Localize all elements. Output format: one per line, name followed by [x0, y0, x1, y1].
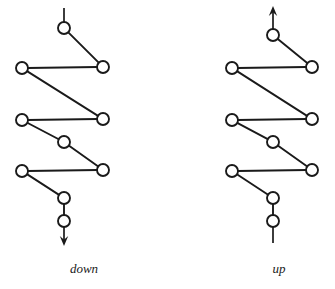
chain-node: [306, 61, 318, 73]
chain-node: [306, 113, 318, 125]
panel-label-down: down: [70, 261, 98, 276]
chain-node: [97, 113, 109, 125]
chain-node: [58, 136, 70, 148]
chain-edge: [27, 170, 97, 171]
chain-node: [267, 215, 279, 227]
zigzag-chain-figure: downup: [0, 0, 335, 289]
chain-node: [97, 164, 109, 176]
chain-node: [226, 165, 238, 177]
chain-node: [226, 114, 238, 126]
chain-node: [267, 29, 279, 41]
panel-label-up: up: [273, 261, 287, 276]
chain-node: [58, 192, 70, 204]
chain-node: [306, 164, 318, 176]
chain-node: [267, 136, 279, 148]
chain-node: [97, 61, 109, 73]
chain-node: [58, 22, 70, 34]
chain-node: [16, 62, 28, 74]
chain-node: [226, 62, 238, 74]
chain-edge: [27, 67, 97, 68]
chain-node: [16, 114, 28, 126]
figure-background: [0, 0, 335, 289]
chain-node: [58, 215, 70, 227]
chain-edge: [237, 170, 306, 171]
chain-edge: [27, 119, 97, 120]
chain-node: [267, 192, 279, 204]
chain-node: [16, 165, 28, 177]
chain-edge: [237, 67, 306, 68]
chain-edge: [237, 119, 306, 120]
